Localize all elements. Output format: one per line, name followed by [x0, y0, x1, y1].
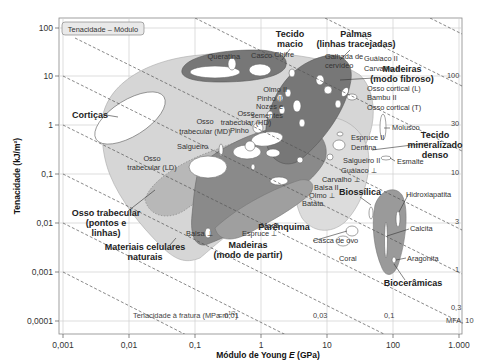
- label-lignum-parallel: Guáiaco II: [364, 54, 398, 63]
- credit: MFA, 10: [446, 316, 474, 325]
- label-palms: (linhas tracejadas): [316, 39, 395, 49]
- label-palms: Palmas: [340, 29, 372, 39]
- bubble-misc3: [299, 119, 305, 127]
- chart-title: Tenacidade – Módulo: [68, 25, 138, 34]
- bubble-osld: [189, 156, 227, 178]
- label-natural-cellular: naturais: [127, 252, 162, 262]
- label-trabecular-hd: Osso: [237, 109, 254, 118]
- label-aragonite: Aragonita: [407, 254, 440, 263]
- label-horn: Chifre: [274, 50, 294, 59]
- label-woods-fibrous: (modo fibroso): [370, 74, 434, 84]
- kic-value: 0,1: [384, 311, 394, 320]
- label-pine: Pinho: [230, 126, 249, 135]
- label-woods-split: (modo de partir): [214, 250, 283, 260]
- label-trabecular-ld: trabecular (LD): [127, 163, 176, 172]
- bubble-guaiaco2: [316, 75, 324, 85]
- bubble-galhada: [289, 69, 295, 77]
- label-keratin: Queratina: [208, 52, 241, 61]
- label-dentine: Dentina: [351, 143, 377, 152]
- x-tick-labels: 0,001 0,01 0,1 1 10 100 1.000: [52, 340, 470, 350]
- label-bamboo: Bambu II: [367, 93, 397, 102]
- label-balsa-perp: Balsa ⊥: [186, 229, 213, 238]
- bubble-hidroxi: [396, 211, 400, 227]
- bubble-casca: [346, 226, 358, 236]
- bubble-pinho: [245, 141, 255, 151]
- kic-value: = 0,01: [218, 311, 239, 320]
- bubble-esmalte: [381, 156, 391, 160]
- ashby-chart: 0,001 0,01 0,1 1 10 100 1.000 100 10 1 0…: [0, 0, 480, 360]
- bubble-chifre: [249, 64, 271, 76]
- y-tick-labels: 100 10 1 0,1 0,01 0,001 0,0001: [27, 23, 53, 326]
- x-axis-title: Módulo de Young E (GPa): [216, 350, 320, 360]
- label-lignum-perp: Guáiaco ⊥: [341, 166, 377, 175]
- label-elm-parallel: Olmo II: [263, 85, 287, 94]
- y-tick: 1: [48, 120, 53, 130]
- kic-value: 0,03: [313, 311, 327, 320]
- x-tick: 10: [322, 340, 332, 350]
- x-tick: 1: [259, 340, 264, 350]
- bubble-calcita: [385, 222, 388, 258]
- kic-value: 3: [455, 217, 459, 226]
- x-tick: 0,001: [52, 340, 74, 350]
- label-willow: Salgueiro: [177, 142, 208, 151]
- label-trabecular-ld: Osso: [143, 154, 160, 163]
- kic-value: 30: [451, 119, 459, 128]
- label-coral: Coral: [339, 254, 357, 263]
- label-soft-tissue: macio: [277, 39, 304, 49]
- bubble-guaiaco-perp: [266, 149, 280, 157]
- label-biosilica: Biossílica: [339, 187, 382, 197]
- bubble-salgueiro2: [327, 154, 333, 160]
- label-spruce-perp: Espruce ⊥: [242, 229, 277, 238]
- bubble-batata: [270, 177, 288, 185]
- label-trabecular-hd: trabecular (HD): [221, 118, 272, 127]
- x-tick: 100: [386, 340, 400, 350]
- bubble-aragonita: [392, 257, 396, 263]
- label-bioceramics: Biocerâmicas: [384, 278, 443, 288]
- x-tick: 1.000: [448, 340, 470, 350]
- label-potato: Batata: [302, 199, 324, 208]
- bubble-carvalho-perp: [297, 157, 303, 163]
- label-enamel: Esmalte: [397, 157, 424, 166]
- y-tick: 100: [39, 23, 53, 33]
- label-nuts: Nozes e: [256, 102, 283, 111]
- label-dense-mineralized: mineralizado: [407, 140, 463, 150]
- bubble-espruce2: [337, 132, 343, 136]
- bubble-nozes: [293, 100, 301, 112]
- x-tick: 0,1: [189, 340, 201, 350]
- kic-value: 0,3: [451, 303, 461, 312]
- label-dense-mineralized: Tecido: [421, 130, 450, 140]
- y-tick: 10: [44, 71, 54, 81]
- label-antler: Galhada de: [325, 52, 363, 61]
- label-hoof: Casco: [251, 51, 272, 60]
- label-calcite: Calcita: [410, 224, 433, 233]
- bubble-otc-t: [335, 100, 341, 108]
- label-willow-parallel: Salgueiro II: [343, 156, 380, 165]
- bubble-biossilica: [369, 207, 373, 219]
- label-soft-tissue: Tecido: [276, 29, 305, 39]
- label-dense-mineralized: denso: [422, 150, 449, 160]
- label-hydroxyapatite: Hidroxiapatita: [406, 190, 452, 199]
- kic-value: 10: [451, 168, 459, 177]
- label-corticas: Cortiças: [72, 110, 108, 120]
- y-tick: 0,1: [41, 169, 53, 179]
- x-tick: 0,01: [121, 340, 138, 350]
- y-tick: 0,01: [36, 218, 53, 228]
- y-tick: 0,0001: [27, 316, 53, 326]
- label-trabecular: linhas): [91, 228, 120, 238]
- label-antler: cervídeo: [325, 61, 353, 70]
- bubble-dentina: [333, 140, 345, 150]
- label-oak-parallel: Carvalho II: [364, 64, 400, 73]
- label-eggshell: Casca de ovo: [313, 236, 358, 245]
- label-natural-cellular: Materiais celulares: [105, 242, 186, 252]
- label-cortical-l: Osso cortical (L): [367, 84, 421, 93]
- bubble-bambu: [347, 94, 357, 100]
- label-cortical-t: Osso cortical (T): [367, 103, 421, 112]
- label-mollusc: Molusco: [392, 123, 420, 132]
- label-trabecular-md: Osso: [196, 117, 213, 126]
- label-trabecular: (pontos e: [86, 218, 127, 228]
- label-woods-split: Madeiras: [228, 240, 267, 250]
- y-tick: 0,001: [32, 267, 54, 277]
- bubble-espruce-perp: [251, 164, 255, 170]
- kic-value: 1: [455, 265, 459, 274]
- label-spruce-parallel: Espruce II: [351, 133, 384, 142]
